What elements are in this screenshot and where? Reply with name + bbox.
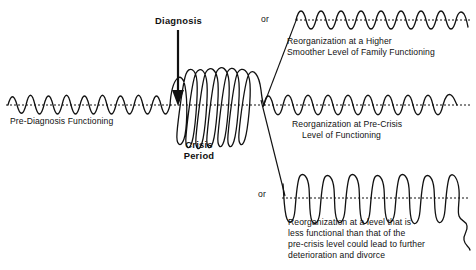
branch-bottom-caption-line2: less functional than that of the bbox=[288, 229, 405, 239]
branch-mid-caption-line2: Level of Functioning bbox=[302, 131, 381, 141]
branch-bottom-caption-line4: deterioration and divorce bbox=[288, 251, 385, 261]
branch-line-to-top bbox=[263, 18, 297, 107]
diagnosis-arrow-head bbox=[172, 90, 184, 106]
branch-line-to-bottom bbox=[261, 100, 285, 196]
family-functioning-diagram: Diagnosis Pre-Diagnosis Functioning Cris… bbox=[0, 0, 476, 270]
branch-top-caption-line1: Reorganization at a Higher bbox=[287, 37, 392, 47]
or-label-top: or bbox=[261, 15, 269, 25]
pre-diagnosis-label: Pre-Diagnosis Functioning bbox=[10, 117, 113, 127]
crisis-period-label-line2: Period bbox=[176, 151, 222, 162]
or-label-bottom: or bbox=[258, 190, 266, 200]
diagnosis-label: Diagnosis bbox=[155, 16, 202, 27]
branch-bottom-caption-line3: pre-crisis level could lead to further bbox=[288, 240, 425, 250]
pre-diagnosis-waveform bbox=[8, 95, 170, 114]
crisis-period-waveform bbox=[170, 68, 264, 149]
branch-top-caption-line2: Smoother Level of Family Functioning bbox=[287, 48, 435, 58]
branch-bottom-caption-line1: Reorganization at a level that is bbox=[288, 218, 411, 228]
branch-mid-caption-line1: Reorganization at Pre-Crisis bbox=[292, 120, 402, 130]
